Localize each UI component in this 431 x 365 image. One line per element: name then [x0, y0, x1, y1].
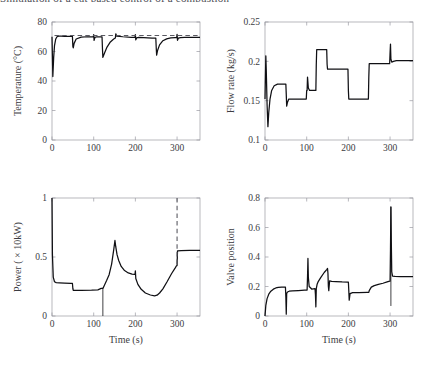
y-tick-label: 0.4	[248, 252, 260, 262]
x-tick-label: 100	[300, 143, 315, 153]
x-tick-label: 200	[128, 143, 143, 153]
y-tick-label: 60	[38, 47, 48, 57]
x-tick-label: 300	[170, 319, 185, 329]
y-tick-label: 0.1	[248, 135, 260, 145]
x-axis-label-bottom-left: Time (s)	[109, 334, 143, 346]
y-tick-label: 0.5	[35, 252, 47, 262]
y-tick-label: 80	[38, 17, 48, 27]
subplot-top-left: 0100200300020406080Temperature (°C)	[12, 17, 200, 153]
y-axis-label-top-left: Temperature (°C)	[12, 46, 24, 116]
y-tick-label: 0	[42, 135, 47, 145]
y-tick-label: 0.6	[248, 223, 260, 233]
x-tick-label: 300	[170, 143, 185, 153]
y-tick-label: 0.2	[248, 282, 260, 292]
y-axis-label-top-right: Flow rate (kg/s)	[225, 49, 237, 113]
y-tick-label: 0.15	[243, 96, 260, 106]
y-axis-label-bottom-right: Valve position	[225, 228, 236, 286]
y-tick-label: 20	[38, 106, 48, 116]
y-tick-label: 1	[42, 193, 47, 203]
x-tick-label: 200	[341, 143, 356, 153]
series-temperature	[52, 34, 200, 77]
x-tick-label: 300	[383, 319, 398, 329]
y-tick-label: 0.8	[248, 193, 260, 203]
x-axis-label-bottom-right: Time (s)	[322, 334, 356, 346]
subplot-top-right: 01002003000.10.150.20.25Flow rate (kg/s)	[225, 17, 413, 153]
y-axis-label-bottom-left: Power ( × 10kW)	[12, 222, 24, 292]
x-tick-label: 100	[300, 319, 315, 329]
y-tick-label: 0.2	[248, 57, 260, 67]
y-tick-label: 0.25	[243, 17, 260, 27]
plot-frame-top-right	[265, 22, 413, 140]
subplot-bottom-left: 010020030000.51Power ( × 10kW)Time (s)	[12, 193, 200, 346]
x-tick-label: 0	[50, 143, 55, 153]
figure-panel-grid: 0100200300020406080Temperature (°C)01002…	[0, 0, 431, 365]
x-tick-label: 0	[263, 143, 268, 153]
x-tick-label: 0	[50, 319, 55, 329]
y-tick-label: 40	[38, 76, 48, 86]
x-tick-label: 300	[383, 143, 398, 153]
x-tick-label: 100	[87, 319, 102, 329]
x-tick-label: 200	[341, 319, 356, 329]
subplot-bottom-right: 010020030000.20.40.60.8Valve positionTim…	[225, 193, 413, 346]
x-tick-label: 200	[128, 319, 143, 329]
y-tick-label: 0	[42, 311, 47, 321]
y-tick-label: 0	[255, 311, 260, 321]
x-tick-label: 0	[263, 319, 268, 329]
x-tick-label: 100	[87, 143, 102, 153]
series-power	[52, 198, 200, 296]
series-flow-rate	[265, 44, 413, 127]
